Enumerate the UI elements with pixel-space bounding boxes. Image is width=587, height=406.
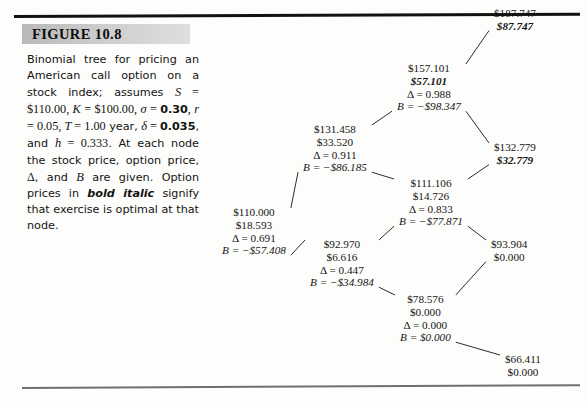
caption-run: = bbox=[147, 119, 160, 133]
caption-run: $110.00 bbox=[27, 102, 66, 116]
caption-run: = bbox=[147, 102, 161, 116]
caption-run: $100.00 bbox=[94, 102, 134, 116]
caption-run: 1.00 bbox=[84, 119, 105, 133]
node-delta: Δ = 0.691 bbox=[222, 232, 286, 245]
node-stock-price: $78.576 bbox=[400, 293, 451, 306]
tree-edge bbox=[372, 172, 394, 179]
node-stock-price: $187.747 bbox=[494, 7, 536, 20]
tree-edge bbox=[379, 226, 394, 240]
node-stock-price: $110.000 bbox=[222, 206, 286, 219]
node-bond: B = $0.000 bbox=[400, 331, 451, 344]
caption-run: = bbox=[27, 119, 37, 133]
node-delta: Δ = 0.000 bbox=[400, 319, 451, 332]
node-stock-price: $93.904 bbox=[491, 238, 527, 251]
tree-edge bbox=[291, 240, 305, 255]
figure-container: FIGURE 10.8 Binomial tree for pricing an… bbox=[0, 0, 587, 406]
tree-edge bbox=[372, 111, 392, 125]
tree-node: $132.779$32.779 bbox=[494, 141, 536, 167]
tree-node: $93.904$0.000 bbox=[491, 238, 527, 264]
caption-run: 0.035 bbox=[160, 120, 195, 133]
tree-edge bbox=[468, 226, 486, 240]
tree-node: $157.101$57.101Δ = 0.988B = −$98.347 bbox=[397, 62, 461, 113]
figure-header-band: FIGURE 10.8 bbox=[22, 24, 190, 44]
node-option-price: $57.101 bbox=[397, 75, 461, 88]
node-option-price: $0.000 bbox=[505, 366, 541, 379]
tree-node: $92.970$6.616Δ = 0.447B = −$34.984 bbox=[310, 238, 374, 289]
caption-run: K bbox=[73, 102, 81, 116]
node-stock-price: $157.101 bbox=[397, 62, 461, 75]
node-stock-price: $131.458 bbox=[303, 123, 367, 136]
node-bond: B = −$77.871 bbox=[399, 215, 463, 228]
tree-edge bbox=[466, 31, 489, 64]
node-delta: Δ = 0.833 bbox=[399, 203, 463, 216]
caption-run: 0.30 bbox=[160, 103, 188, 116]
caption-run: = bbox=[71, 119, 84, 133]
tree-node: $111.106$14.726Δ = 0.833B = −$77.871 bbox=[399, 177, 463, 228]
tree-edge bbox=[456, 342, 500, 355]
figure-number-label: FIGURE 10.8 bbox=[32, 26, 122, 43]
node-bond: B = −$86.185 bbox=[303, 161, 367, 174]
caption-run: r bbox=[194, 102, 199, 116]
tree-edge bbox=[379, 287, 395, 295]
figure-bottom-rule bbox=[22, 384, 580, 389]
node-option-price: $32.779 bbox=[494, 154, 536, 167]
node-bond: B = −$34.984 bbox=[310, 276, 374, 289]
node-stock-price: $92.970 bbox=[310, 238, 374, 251]
caption-run: Binomial tree for pricing an American ca… bbox=[27, 53, 199, 99]
node-stock-price: $66.411 bbox=[505, 353, 541, 366]
tree-edge bbox=[456, 262, 486, 295]
tree-edge bbox=[468, 165, 489, 179]
node-stock-price: $132.779 bbox=[494, 141, 536, 154]
tree-node: $78.576$0.000Δ = 0.000B = $0.000 bbox=[400, 293, 451, 344]
caption-run: 0.333 bbox=[81, 136, 108, 150]
caption-run: , and bbox=[35, 171, 76, 184]
node-delta: Δ = 0.447 bbox=[310, 264, 374, 277]
figure-caption: Binomial tree for pricing an American ca… bbox=[27, 52, 199, 234]
caption-run: = bbox=[181, 85, 199, 99]
node-option-price: $14.726 bbox=[399, 190, 463, 203]
node-option-price: $0.000 bbox=[491, 251, 527, 264]
node-option-price: $6.616 bbox=[310, 251, 374, 264]
caption-run: year, bbox=[106, 120, 142, 133]
node-option-price: $18.593 bbox=[222, 219, 286, 232]
caption-run: bold italic bbox=[87, 187, 154, 200]
tree-edge bbox=[291, 172, 298, 208]
node-bond: B = −$57.408 bbox=[222, 244, 286, 257]
caption-run: 0.05 bbox=[37, 119, 58, 133]
node-delta: Δ = 0.911 bbox=[303, 149, 367, 162]
tree-node: $110.000$18.593Δ = 0.691B = −$57.408 bbox=[222, 206, 286, 257]
tree-edge bbox=[466, 111, 489, 143]
node-stock-price: $111.106 bbox=[399, 177, 463, 190]
caption-run: = bbox=[81, 102, 95, 116]
node-option-price: $33.520 bbox=[303, 136, 367, 149]
caption-run: Δ bbox=[27, 170, 35, 184]
node-option-price: $0.000 bbox=[400, 306, 451, 319]
tree-node: $131.458$33.520Δ = 0.911B = −$86.185 bbox=[303, 123, 367, 174]
node-delta: Δ = 0.988 bbox=[397, 88, 461, 101]
caption-run: B bbox=[76, 170, 84, 184]
caption-run: = bbox=[61, 136, 81, 150]
node-bond: B = −$98.347 bbox=[397, 100, 461, 113]
node-option-price: $87.747 bbox=[494, 20, 536, 33]
tree-node: $187.747$87.747 bbox=[494, 7, 536, 33]
tree-node: $66.411$0.000 bbox=[505, 353, 541, 379]
